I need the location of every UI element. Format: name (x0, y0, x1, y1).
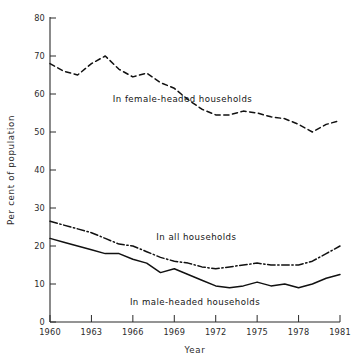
series-annotations: In female-headed householdsIn all househ… (113, 94, 260, 307)
x-tick-label: 1966 (122, 327, 144, 337)
y-tick-label: 60 (34, 89, 45, 99)
annotation-male: In male-headed households (130, 297, 260, 307)
x-tick-label: 1975 (246, 327, 268, 337)
y-tick-label: 10 (34, 279, 45, 289)
annotation-female: In female-headed households (113, 94, 253, 104)
x-tick-label: 1963 (81, 327, 103, 337)
y-tick-label: 20 (34, 241, 45, 251)
y-tick-label: 70 (34, 51, 45, 61)
x-axis-ticks: 19601963196619691972197519781981 (39, 315, 351, 337)
series-line (50, 221, 340, 268)
x-axis-title: Year (184, 345, 206, 355)
y-axis-ticks: 01020304050607080 (34, 13, 56, 327)
line-chart: 01020304050607080 1960196319661969197219… (0, 0, 362, 362)
x-tick-label: 1960 (39, 327, 61, 337)
x-tick-label: 1969 (163, 327, 185, 337)
y-tick-label: 0 (40, 317, 45, 327)
y-tick-label: 50 (34, 127, 45, 137)
x-tick-label: 1978 (288, 327, 310, 337)
series-lines (50, 56, 340, 288)
x-tick-label: 1972 (205, 327, 227, 337)
y-tick-label: 40 (34, 165, 45, 175)
y-tick-label: 30 (34, 203, 45, 213)
chart-container: 01020304050607080 1960196319661969197219… (0, 0, 362, 362)
y-tick-label: 80 (34, 13, 45, 23)
x-tick-label: 1981 (329, 327, 351, 337)
y-axis-title: Per cent of population (6, 115, 16, 225)
annotation-all: In all households (156, 232, 236, 242)
series-line (50, 238, 340, 287)
